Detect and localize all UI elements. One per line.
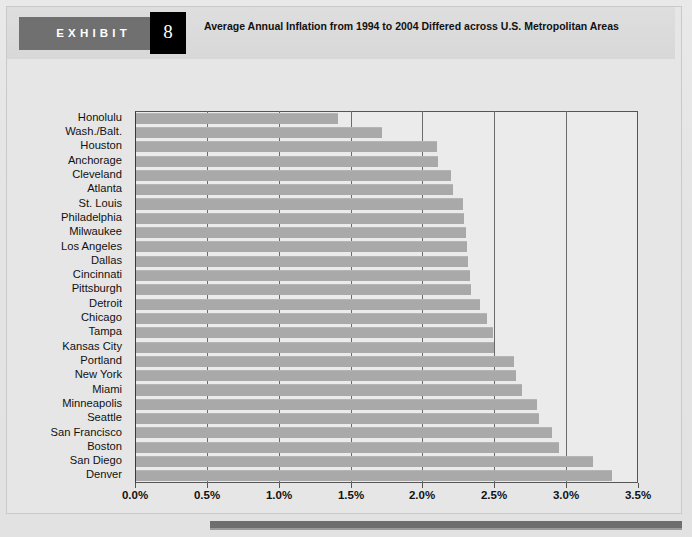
x-axis-tick [494,483,495,488]
y-axis-label: Los Angeles [0,239,130,253]
y-axis-label: Detroit [0,296,130,310]
bar [136,184,453,195]
x-axis-label: 0.0% [100,489,170,501]
bar [136,356,514,367]
footer-rule [210,521,682,528]
page-background: EXHIBIT 8 Average Annual Inflation from … [0,0,692,537]
y-axis-label: Wash./Balt. [0,124,130,138]
x-axis-label: 3.5% [603,489,673,501]
y-axis-label: Honolulu [0,110,130,124]
footer-rule-shadow [210,528,682,530]
y-axis-label: Tampa [0,324,130,338]
x-axis-tick [638,483,639,488]
bar [136,384,522,395]
bar [136,413,539,424]
bar [136,299,480,310]
y-axis-label: Cincinnati [0,267,130,281]
y-axis-label: Cleveland [0,167,130,181]
x-axis-label: 2.0% [387,489,457,501]
y-axis-label: Atlanta [0,181,130,195]
bar [136,127,382,138]
y-axis-labels: HonoluluWash./Balt.HoustonAnchorageCleve… [0,111,130,483]
bar [136,270,470,281]
y-axis-label: Pittsburgh [0,281,130,295]
x-axis-tick [279,483,280,488]
bar [136,370,516,381]
y-axis-label: Chicago [0,310,130,324]
bar [136,156,438,167]
x-axis-tick [135,483,136,488]
bar [136,213,464,224]
y-axis-label: New York [0,367,130,381]
bar [136,442,559,453]
bar [136,342,494,353]
y-axis-label: Philadelphia [0,210,130,224]
y-axis-label: Seattle [0,410,130,424]
y-axis-label: Dallas [0,253,130,267]
x-axis-label: 2.5% [459,489,529,501]
x-axis-tick [566,483,567,488]
chart: HonoluluWash./Balt.HoustonAnchorageCleve… [0,0,692,537]
y-axis-label: Milwaukee [0,224,130,238]
bar [136,256,468,267]
x-axis-tick [207,483,208,488]
y-axis-label: San Francisco [0,425,130,439]
bar [136,241,467,252]
bar [136,170,451,181]
y-axis-label: Houston [0,138,130,152]
bar [136,327,493,338]
bar [136,399,537,410]
bar [136,113,338,124]
bar [136,198,463,209]
x-axis-label: 0.5% [172,489,242,501]
y-axis-label: Miami [0,382,130,396]
y-axis-label: Kansas City [0,339,130,353]
x-axis-tick [351,483,352,488]
bar [136,313,487,324]
x-axis-tick [422,483,423,488]
bar [136,427,552,438]
y-axis-label: Portland [0,353,130,367]
bar [136,141,437,152]
y-axis-label: Denver [0,467,130,481]
bar [136,456,593,467]
y-axis-label: Anchorage [0,153,130,167]
bar [136,227,466,238]
x-axis-label: 1.0% [244,489,314,501]
x-axis-label: 1.5% [316,489,386,501]
x-axis-label: 3.0% [531,489,601,501]
y-axis-label: San Diego [0,453,130,467]
y-axis-label: Minneapolis [0,396,130,410]
gridline [566,111,567,483]
bar [136,284,471,295]
bar [136,470,612,481]
y-axis-label: St. Louis [0,196,130,210]
y-axis-label: Boston [0,439,130,453]
